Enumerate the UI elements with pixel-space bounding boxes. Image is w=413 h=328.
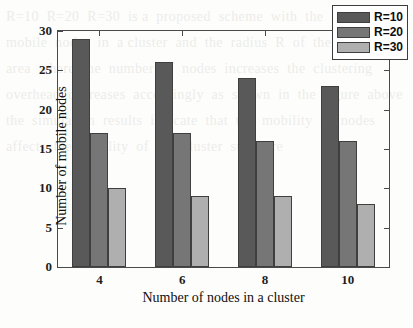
x-axis-tick-label: 8	[262, 272, 269, 288]
y-axis-tick-right	[384, 267, 389, 268]
y-axis-tick-label: 15	[39, 141, 52, 157]
x-axis-tick-top	[265, 31, 266, 36]
y-axis-tick-label: 25	[39, 62, 52, 78]
legend-item-R10: R=10	[337, 11, 403, 24]
y-axis-tick	[58, 70, 63, 71]
y-axis-tick-label: 20	[39, 102, 52, 118]
y-axis-tick-right	[384, 110, 389, 111]
legend-item-R30: R=30	[337, 41, 403, 54]
y-axis-tick-label: 30	[39, 23, 52, 39]
legend-label: R=10	[374, 12, 403, 23]
y-axis-tick-label: 0	[46, 259, 53, 275]
x-axis-title: Number of nodes in a cluster	[57, 290, 390, 306]
bar-R20-10	[339, 141, 357, 267]
y-axis-tick-right	[384, 188, 389, 189]
bar-R10-6	[155, 62, 173, 267]
bar-R10-8	[238, 78, 256, 267]
bar-R30-10	[357, 204, 375, 267]
legend-swatch-icon	[337, 12, 370, 23]
y-axis-tick	[58, 228, 63, 229]
x-axis-tick-top	[182, 31, 183, 36]
x-axis-tick-label: 10	[341, 272, 354, 288]
x-axis-tick-top	[99, 31, 100, 36]
y-axis-tick-right	[384, 149, 389, 150]
chart-figure: 05101520253046810 Number of mobile nodes…	[0, 0, 413, 328]
y-axis-tick-right	[384, 228, 389, 229]
y-axis-tick	[58, 31, 63, 32]
y-axis-tick-right	[384, 70, 389, 71]
plot-area: 05101520253046810	[57, 30, 390, 268]
bar-R10-4	[72, 39, 90, 267]
y-axis-title: Number of mobile nodes	[54, 86, 70, 226]
x-axis-tick-label: 4	[96, 272, 103, 288]
bar-R30-4	[108, 188, 126, 267]
bar-R10-10	[321, 86, 339, 267]
bar-R20-6	[173, 133, 191, 267]
x-axis-tick-label: 6	[179, 272, 186, 288]
y-axis-tick-label: 10	[39, 180, 52, 196]
legend-label: R=30	[374, 42, 403, 53]
y-axis-tick-label: 5	[46, 220, 53, 236]
legend-item-R20: R=20	[337, 26, 403, 39]
bar-R20-4	[90, 133, 108, 267]
legend-label: R=20	[374, 27, 403, 38]
legend-swatch-icon	[337, 27, 370, 38]
bar-R30-8	[274, 196, 292, 267]
bar-R30-6	[191, 196, 209, 267]
chart-legend: R=10R=20R=30	[332, 5, 408, 60]
legend-swatch-icon	[337, 42, 370, 53]
y-axis-tick	[58, 267, 63, 268]
bar-R20-8	[256, 141, 274, 267]
